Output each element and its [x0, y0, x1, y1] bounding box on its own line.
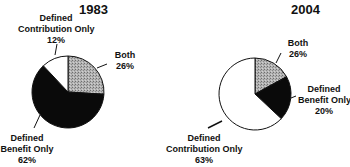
- label-pct: 12%: [18, 35, 94, 46]
- label-both-1983: Both 26%: [111, 50, 139, 72]
- pie-slice-both: [68, 56, 104, 94]
- leader-line-both-1983: [97, 64, 107, 68]
- label-text: Benefit Only: [0, 144, 54, 155]
- leader-line-both-2004: [276, 53, 281, 63]
- label-pct: 20%: [298, 106, 350, 117]
- label-db-1983: Defined Benefit Only 62%: [0, 133, 54, 166]
- label-text: Contribution Only: [18, 24, 94, 35]
- label-text: Defined: [18, 13, 94, 24]
- chart-title-2004: 2004: [291, 2, 320, 17]
- label-text: Both: [284, 38, 312, 49]
- leader-line-db-2004: [291, 96, 296, 98]
- pie-chart-1983: [32, 56, 104, 128]
- label-pct: 63%: [166, 155, 242, 166]
- label-pct: 26%: [284, 49, 312, 60]
- label-dc-2004: Defined Contribution Only 63%: [166, 133, 242, 166]
- pie-chart-2004: [219, 58, 291, 130]
- label-pct: 62%: [0, 155, 54, 166]
- label-text: Defined: [166, 133, 242, 144]
- label-text: Benefit Only: [298, 95, 350, 106]
- label-text: Defined: [298, 84, 350, 95]
- label-both-2004: Both 26%: [284, 38, 312, 60]
- leader-line-dc-2004: [208, 121, 222, 128]
- label-text: Contribution Only: [166, 144, 242, 155]
- label-dc-1983: Defined Contribution Only 12%: [18, 13, 94, 46]
- leader-line-db-1983: [34, 115, 40, 128]
- label-db-2004: Defined Benefit Only 20%: [298, 84, 350, 117]
- label-text: Both: [111, 50, 139, 61]
- label-text: Defined: [0, 133, 54, 144]
- label-pct: 26%: [111, 61, 139, 72]
